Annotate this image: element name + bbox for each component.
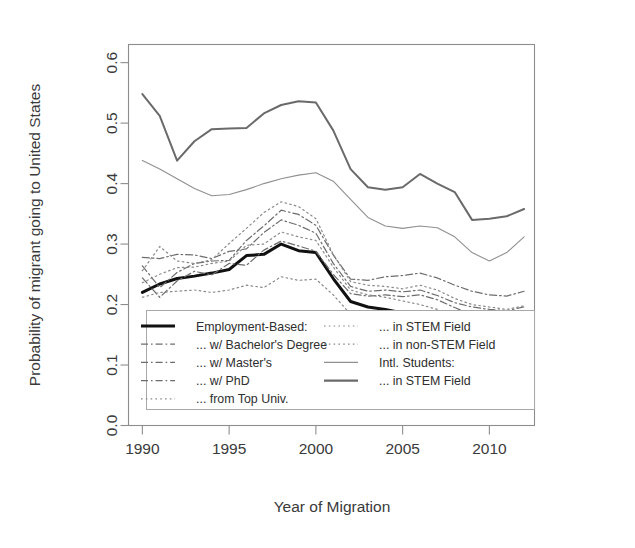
x-tick-label: 2000: [299, 440, 334, 457]
legend-item-label: ... w/ Master's: [196, 356, 272, 370]
legend-item-label: ... w/ PhD: [196, 374, 250, 388]
chart-figure: Probability of migrant going to United S…: [0, 0, 635, 548]
y-tick-label: 0.6: [103, 52, 120, 74]
legend-item-label: Intl. Students:: [379, 356, 455, 370]
x-tick-label: 1990: [125, 440, 160, 457]
legend-item-label: ... from Top Univ.: [196, 392, 289, 406]
x-tick-label: 2005: [385, 440, 419, 457]
legend-item-label: ... in STEM Field: [379, 374, 471, 388]
y-tick-label: 0.0: [103, 414, 120, 436]
y-tick-label: 0.4: [103, 172, 120, 194]
chart-background: [0, 0, 635, 548]
legend-item-label: Employment-Based:: [196, 320, 308, 334]
x-axis-title: Year of Migration: [274, 498, 391, 515]
y-tick-label: 0.3: [103, 233, 120, 255]
x-tick-label: 2010: [472, 440, 507, 457]
legend-item-label: ... in non-STEM Field: [379, 338, 495, 352]
line-chart: Probability of migrant going to United S…: [0, 0, 635, 548]
chart-legend: Employment-Based:... w/ Bachelor's Degre…: [141, 311, 535, 410]
legend-item-label: ... w/ Bachelor's Degree: [196, 338, 327, 352]
x-tick-label: 1995: [212, 440, 246, 457]
y-axis-title: Probability of migrant going to United S…: [26, 84, 43, 387]
y-tick-label: 0.2: [103, 294, 120, 316]
y-tick-label: 0.5: [103, 112, 120, 134]
y-tick-label: 0.1: [103, 354, 120, 376]
legend-item-label: ... in STEM Field: [379, 320, 471, 334]
